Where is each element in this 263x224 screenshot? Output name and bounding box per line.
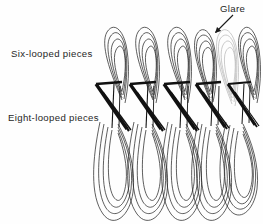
zigzag-unit [164, 82, 199, 131]
looped-pieces-figure: Six-looped pieces Eight-looped pieces Gl… [0, 0, 263, 224]
top-loop-group [105, 27, 129, 103]
label-eight-looped-pieces: Eight-looped pieces [8, 112, 99, 123]
bottom-loop-group [162, 122, 202, 220]
zigzag-unit [96, 82, 131, 131]
label-six-looped-pieces: Six-looped pieces [11, 48, 93, 59]
top-loop-group [195, 30, 217, 102]
bottom-loop-groups [94, 122, 258, 220]
zigzag-unit [196, 82, 229, 129]
label-glare: Glare [220, 3, 245, 14]
zigzag-unit [130, 82, 165, 131]
